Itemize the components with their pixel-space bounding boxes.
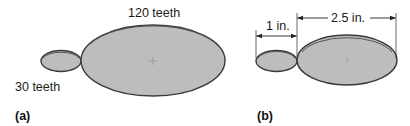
center-mark xyxy=(276,60,277,61)
figure-b: 1 in. 2.5 in. (b) xyxy=(256,11,397,123)
small-gear-b xyxy=(256,51,297,72)
figure-b-label: (b) xyxy=(257,109,273,123)
gear-diagram: 120 teeth 30 teeth (a) 1 in. 2.5 in. (b) xyxy=(0,0,410,126)
large-gear-teeth-label: 120 teeth xyxy=(128,6,180,20)
small-gear-teeth-label: 30 teeth xyxy=(15,80,60,94)
large-gear-a xyxy=(81,25,225,96)
figure-a: 120 teeth 30 teeth (a) xyxy=(15,6,225,123)
figure-a-label: (a) xyxy=(15,109,30,123)
small-gear-a xyxy=(41,51,81,72)
large-gear-b xyxy=(297,35,397,85)
large-diameter-label: 2.5 in. xyxy=(331,11,365,25)
small-diameter-label: 1 in. xyxy=(266,19,290,33)
